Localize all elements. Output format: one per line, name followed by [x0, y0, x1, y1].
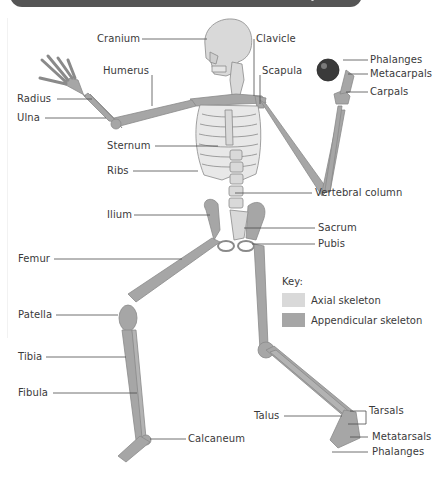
vertebral-column: [229, 150, 243, 208]
skull: [205, 19, 252, 76]
label-tibia: Tibia: [18, 351, 42, 363]
label-vertebral-column: Vertebral column: [315, 187, 402, 199]
label-sternum: Sternum: [107, 140, 150, 152]
legend-title: Key:: [282, 276, 422, 287]
label-talus: Talus: [254, 410, 279, 422]
left-leg: [118, 238, 220, 462]
ball: [317, 59, 339, 81]
label-sacrum: Sacrum: [318, 222, 357, 234]
label-calcaneum: Calcaneum: [188, 433, 245, 445]
label-clavicle: Clavicle: [256, 33, 296, 45]
label-ilium: Ilium: [107, 209, 132, 221]
cervical-spine: [230, 62, 244, 95]
legend: Key: Axial skeleton Appendicular skeleto…: [282, 276, 422, 332]
label-metatarsals: Metatarsals: [372, 431, 431, 443]
label-ribs: Ribs: [107, 165, 129, 177]
label-humerus: Humerus: [103, 65, 149, 77]
legend-item-axial: Axial skeleton: [282, 292, 422, 308]
label-pubis: Pubis: [318, 238, 345, 250]
label-carpals: Carpals: [370, 86, 408, 98]
sternum: [225, 110, 233, 145]
label-radius: Radius: [17, 93, 51, 105]
legend-label: Axial skeleton: [311, 295, 381, 306]
label-femur: Femur: [18, 253, 50, 265]
label-scapula: Scapula: [262, 65, 302, 77]
legend-item-appendicular: Appendicular skeleton: [282, 312, 422, 328]
label-metacarpals: Metacarpals: [370, 68, 432, 80]
right-arm: [260, 70, 354, 196]
label-tarsals: Tarsals: [369, 405, 404, 417]
label-phalanges-hand: Phalanges: [370, 54, 422, 66]
label-phalanges-foot: Phalanges: [372, 446, 424, 458]
axial-swatch: [282, 293, 305, 307]
label-cranium: Cranium: [97, 33, 140, 45]
label-fibula: Fibula: [18, 387, 48, 399]
label-ulna: Ulna: [17, 112, 40, 124]
appendicular-swatch: [282, 313, 305, 327]
label-patella: Patella: [18, 309, 52, 321]
legend-label: Appendicular skeleton: [311, 315, 422, 326]
